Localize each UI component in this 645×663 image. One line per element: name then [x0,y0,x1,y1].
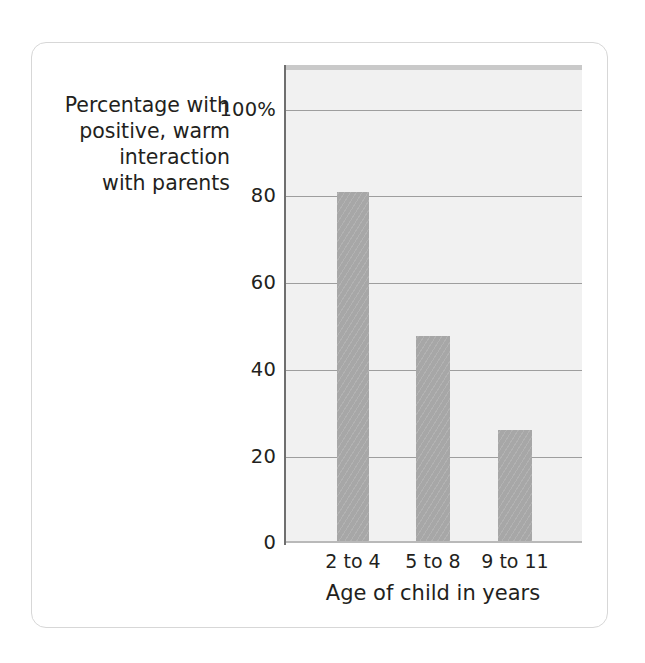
y-tick-20: 20 [212,447,276,467]
bar-hatch [416,336,450,541]
y-axis-title-line-1: Percentage with [40,92,230,118]
bar-2-to-4 [337,192,369,541]
gridline-100 [284,110,582,111]
y-axis-title-line-2: positive, warm [40,118,230,144]
y-tick-40: 40 [212,360,276,380]
y-axis-line [284,65,286,545]
bar-hatch [337,192,369,541]
bar-9-to-11 [498,430,532,541]
y-axis-title-line-3: interaction [40,144,230,170]
gridline-0 [284,541,582,543]
gridline-80 [284,196,582,197]
y-axis-title: Percentage with positive, warm interacti… [40,92,230,196]
y-tick-100: 100% [212,100,276,120]
x-axis-title: Age of child in years [284,581,582,605]
y-tick-0: 0 [212,533,276,553]
bar-hatch [498,430,532,541]
gridline-60 [284,283,582,284]
plot-area [284,65,582,543]
plot-top-band [284,65,582,70]
x-tick-label-9-to-11: 9 to 11 [460,551,570,571]
y-axis-title-line-4: with parents [40,170,230,196]
bar-chart: Percentage with positive, warm interacti… [0,0,645,663]
bar-5-to-8 [416,336,450,541]
y-tick-60: 60 [212,273,276,293]
y-tick-80: 80 [212,186,276,206]
